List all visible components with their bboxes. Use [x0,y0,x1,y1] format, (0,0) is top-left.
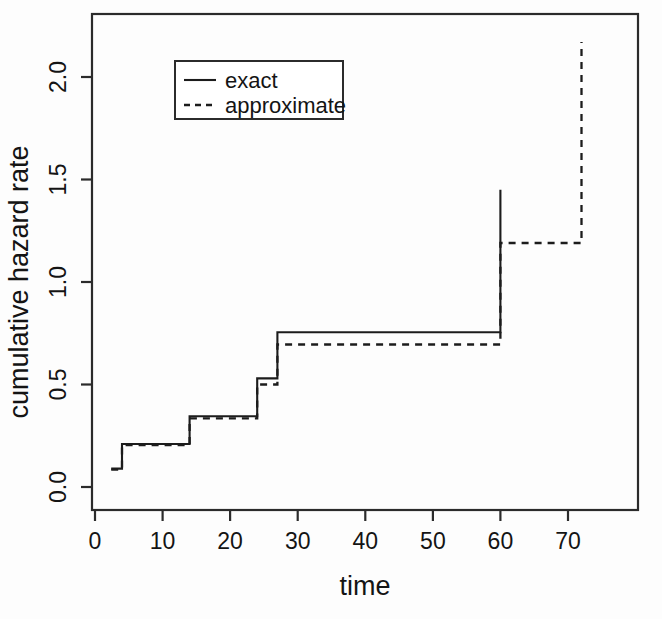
y-tick-label-2: 1.0 [45,266,71,298]
y-tick-label-4: 2.0 [45,61,71,93]
x-tick-label-2: 20 [217,528,243,554]
chart-legend: exact approximate [175,61,346,119]
y-tick-label-1: 0.5 [45,369,71,401]
y-tick-label-3: 1.5 [45,164,71,196]
series-exact [111,190,500,469]
plot-frame [92,14,638,510]
x-tick-label-0: 0 [89,528,102,554]
cumulative-hazard-chart: 0.0 0.5 1.0 1.5 2.0 cumulative hazard ra… [0,0,662,619]
y-axis-ticks [81,77,92,487]
chart-figure: 0.0 0.5 1.0 1.5 2.0 cumulative hazard ra… [0,0,662,619]
x-tick-label-7: 70 [555,528,581,554]
y-axis-title: cumulative hazard rate [4,145,34,418]
y-tick-label-0: 0.0 [45,471,71,503]
legend-label-approximate: approximate [225,93,346,118]
x-tick-label-4: 40 [353,528,379,554]
x-axis-title: time [339,571,390,601]
legend-label-exact: exact [225,68,278,93]
x-tick-label-3: 30 [285,528,311,554]
y-axis-tick-labels: 0.0 0.5 1.0 1.5 2.0 [45,61,71,503]
x-tick-label-5: 50 [420,528,446,554]
x-axis-tick-labels: 0 10 20 30 40 50 60 70 [89,528,581,554]
x-axis-ticks [95,510,568,521]
x-tick-label-1: 10 [150,528,176,554]
x-tick-label-6: 60 [488,528,514,554]
